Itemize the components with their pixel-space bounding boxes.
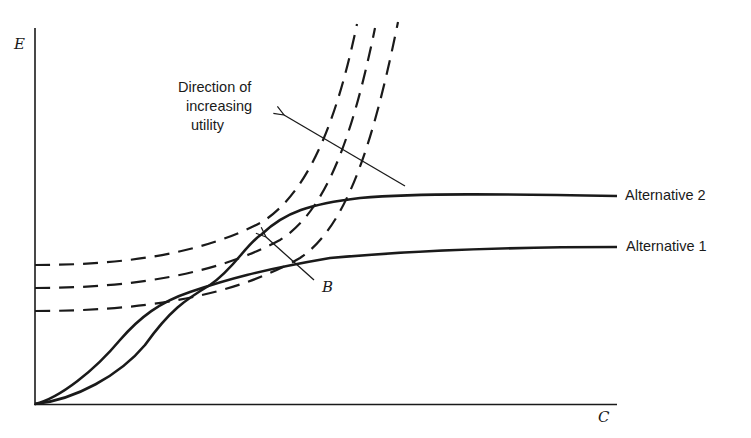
indifference-curve-high [35, 24, 357, 265]
utility-direction-arrow [284, 115, 405, 186]
indifference-curve-low [35, 22, 398, 311]
utility-annotation: Direction of increasing utility [178, 78, 252, 135]
y-axis-label: E [14, 35, 25, 53]
annotation-line-2: increasing [178, 97, 252, 116]
indifference-curve-mid [35, 28, 375, 288]
diagram-svg [0, 0, 751, 438]
alternative-1-label: Alternative 1 [626, 238, 707, 254]
x-axis-label: C [598, 408, 609, 426]
alternative-1-curve [35, 247, 617, 404]
diagram-canvas: E C Direction of increasing utility Alte… [0, 0, 751, 438]
annotation-line-3: utility [178, 116, 252, 135]
alternative-2-curve [35, 194, 617, 404]
point-b-pointer [266, 237, 314, 280]
alternative-2-label: Alternative 2 [625, 187, 706, 203]
point-b-label: B [322, 278, 333, 296]
annotation-line-1: Direction of [178, 78, 252, 97]
